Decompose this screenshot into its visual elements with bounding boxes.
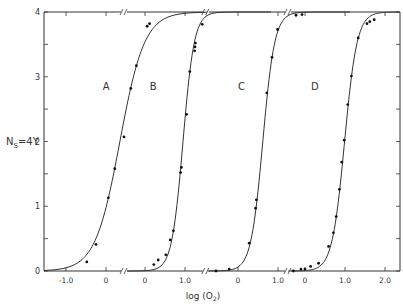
axes: 01234-1.0001.001.001.02.0 (35, 8, 400, 285)
y-tick-label: 3 (35, 73, 40, 82)
data-point (194, 46, 197, 49)
y-tick-label: 4 (35, 8, 40, 17)
data-point (350, 75, 353, 78)
data-point (346, 103, 349, 106)
data-point (113, 167, 116, 170)
data-point (300, 268, 303, 271)
fit-curve-c (208, 12, 350, 271)
data-point (157, 259, 160, 262)
data-point (335, 215, 338, 218)
data-point (295, 14, 298, 17)
data-point (357, 37, 360, 40)
data-point (276, 28, 279, 31)
data-point (146, 25, 149, 28)
curve-label-d: D (311, 81, 319, 92)
x-tick-label: 1.0 (272, 276, 284, 285)
data-point (172, 229, 175, 232)
data-point (255, 198, 258, 201)
y-axis-label: NS=4Y (6, 136, 40, 150)
data-point (228, 268, 231, 271)
fit-curve-b (127, 12, 271, 271)
data-point (327, 245, 330, 248)
x-tick-label: 0 (303, 276, 308, 285)
data-point (332, 231, 335, 234)
curve-label-a: A (103, 81, 110, 92)
data-points (85, 13, 375, 272)
x-tick-label: 1.0 (179, 276, 191, 285)
oxygen-binding-chart: 01234-1.0001.001.001.02.0 ABCD NS=4Y log… (0, 0, 403, 306)
data-point (201, 23, 204, 26)
data-point (340, 161, 343, 164)
data-point (107, 196, 110, 199)
x-tick-label: -1.0 (59, 276, 74, 285)
curve-label-c: C (238, 81, 245, 92)
data-point (317, 262, 320, 265)
data-point (373, 18, 376, 21)
data-point (123, 136, 126, 139)
x-tick-label: 1.0 (339, 276, 351, 285)
data-point (366, 22, 369, 25)
data-point (343, 139, 346, 142)
data-point (301, 13, 304, 16)
x-tick-label: 2.0 (379, 276, 391, 285)
data-point (271, 56, 274, 59)
data-point (185, 113, 188, 116)
x-axis-label: log (O2) (186, 291, 221, 302)
data-point (265, 92, 268, 95)
fit-curves (44, 12, 399, 271)
y-tick-label: 1 (35, 202, 40, 211)
x-tick-label: 0 (104, 276, 109, 285)
data-point (309, 265, 312, 268)
data-point (368, 20, 371, 23)
data-point (248, 242, 251, 245)
data-point (129, 87, 132, 90)
data-point (304, 268, 307, 271)
data-point (85, 261, 88, 264)
curve-label-b: B (150, 81, 157, 92)
curve-labels: ABCD (103, 81, 319, 92)
data-point (164, 253, 167, 256)
y-tick-label: 0 (35, 267, 40, 276)
data-point (180, 166, 183, 169)
data-point (152, 263, 155, 266)
data-point (338, 188, 341, 191)
data-point (193, 49, 196, 52)
data-point (215, 270, 218, 273)
data-point (188, 70, 191, 73)
x-tick-label: 0 (236, 276, 241, 285)
data-point (135, 64, 138, 67)
x-tick-label: 0 (143, 276, 148, 285)
data-point (169, 239, 172, 242)
data-point (292, 270, 295, 273)
data-point (254, 207, 257, 210)
data-point (194, 42, 197, 45)
data-point (148, 22, 151, 25)
data-point (179, 171, 182, 174)
data-point (95, 243, 98, 246)
